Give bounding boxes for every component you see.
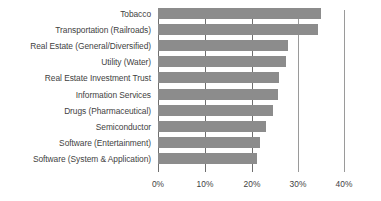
- value-axis: 0% 10% 20% 30% 40%: [158, 172, 345, 194]
- bar: [158, 137, 260, 148]
- bar: [158, 40, 288, 51]
- bar: [158, 8, 321, 19]
- category-label: Transportation (Railroads): [0, 25, 151, 36]
- bar: [158, 24, 318, 35]
- x-tick-label: 10%: [185, 179, 225, 189]
- x-tick-label: 0%: [138, 179, 178, 189]
- bar: [158, 121, 266, 132]
- category-label: Utility (Water): [0, 57, 151, 68]
- category-axis: Tobacco Transportation (Railroads) Real …: [0, 7, 155, 172]
- plot-area: [158, 7, 345, 172]
- category-label: Real Estate (General/Diversified): [0, 41, 151, 52]
- category-label: Software (Entertainment): [0, 138, 151, 149]
- category-label: Drugs (Pharmaceutical): [0, 106, 151, 117]
- bar: [158, 105, 273, 116]
- x-tick-label: 30%: [278, 179, 318, 189]
- x-tick-label: 20%: [232, 179, 272, 189]
- bar: [158, 56, 286, 67]
- category-label: Software (System & Application): [0, 154, 151, 165]
- bar: [158, 153, 257, 164]
- category-label: Real Estate Investment Trust: [0, 73, 151, 84]
- bar: [158, 89, 278, 100]
- x-tick-label: 40%: [324, 179, 364, 189]
- category-label: Tobacco: [0, 9, 151, 20]
- category-label: Information Services: [0, 90, 151, 101]
- gridline-40: [344, 10, 345, 172]
- category-label: Semiconductor: [0, 122, 151, 133]
- bar-chart: Tobacco Transportation (Railroads) Real …: [0, 0, 381, 201]
- bar: [158, 72, 279, 83]
